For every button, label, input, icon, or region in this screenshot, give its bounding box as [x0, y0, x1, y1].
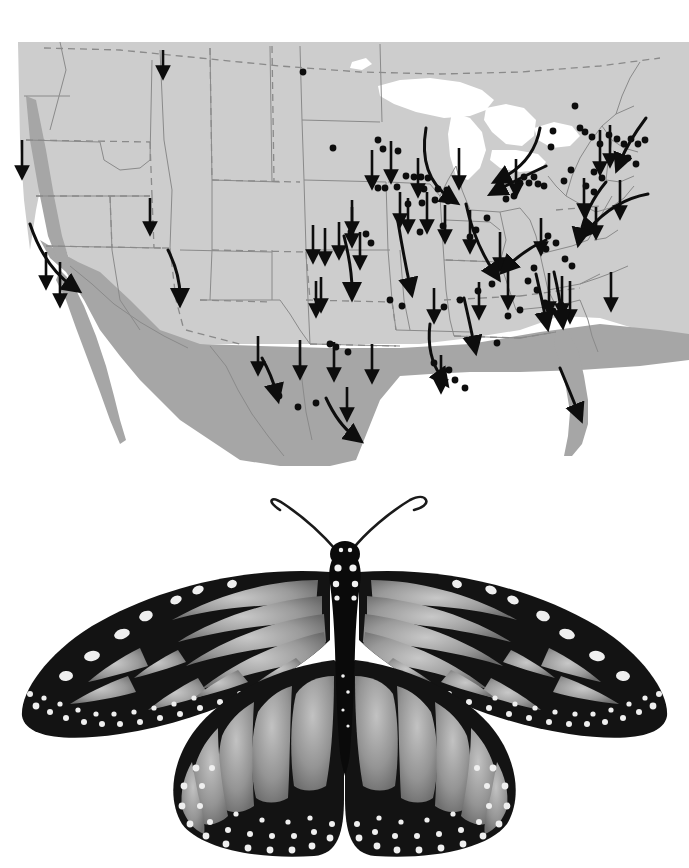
recovery-dot	[403, 173, 410, 180]
recovery-dot	[526, 180, 533, 187]
recovery-dot	[419, 200, 426, 207]
recovery-dot	[635, 141, 642, 148]
recovery-dot	[633, 161, 640, 168]
recovery-dot	[380, 146, 387, 153]
butterfly-head	[330, 541, 360, 567]
recovery-dot	[313, 400, 320, 407]
recovery-dot	[345, 349, 352, 356]
recovery-dot	[417, 229, 424, 236]
recovery-dot	[582, 129, 589, 136]
recovery-dot	[531, 174, 538, 181]
recovery-dot	[525, 278, 532, 285]
recovery-dot	[300, 69, 307, 76]
recovery-dot	[562, 256, 569, 263]
figure-container	[0, 0, 689, 868]
recovery-dot	[494, 340, 501, 347]
recovery-dot	[462, 385, 469, 392]
recovery-dot	[484, 215, 491, 222]
recovery-dot	[411, 174, 418, 181]
recovery-dot	[553, 240, 560, 247]
migration-map-panel	[0, 0, 689, 480]
recovery-dot	[421, 186, 428, 193]
recovery-dot	[535, 181, 542, 188]
recovery-dot	[550, 308, 557, 315]
recovery-dot	[395, 148, 402, 155]
recovery-dot	[545, 233, 552, 240]
recovery-dot	[399, 303, 406, 310]
butterfly-svg	[0, 480, 689, 868]
recovery-dot	[589, 134, 596, 141]
recovery-dot	[452, 377, 459, 384]
recovery-dot	[441, 304, 448, 311]
recovery-dot	[548, 144, 555, 151]
recovery-dot	[614, 136, 621, 143]
recovery-dot	[446, 367, 453, 374]
recovery-dot	[295, 404, 302, 411]
recovery-dot	[642, 137, 649, 144]
recovery-dot	[363, 231, 370, 238]
recovery-dot	[572, 103, 579, 110]
recovery-dot	[382, 185, 389, 192]
recovery-dot	[568, 167, 575, 174]
recovery-dot	[543, 246, 550, 253]
recovery-dot	[432, 197, 439, 204]
recovery-dot	[511, 193, 518, 200]
recovery-dot	[457, 297, 464, 304]
recovery-dot	[561, 178, 568, 185]
recovery-dot	[276, 393, 283, 400]
migration-map-svg	[0, 0, 689, 480]
recovery-dot	[327, 341, 334, 348]
recovery-dot	[550, 128, 557, 135]
recovery-dot	[330, 145, 337, 152]
recovery-dot	[503, 196, 510, 203]
recovery-dot	[489, 281, 496, 288]
recovery-dot	[517, 307, 524, 314]
recovery-dot	[531, 265, 538, 272]
recovery-dot	[625, 155, 632, 162]
recovery-dot	[599, 175, 606, 182]
recovery-dot	[394, 184, 401, 191]
recovery-dot	[569, 263, 576, 270]
recovery-dot	[375, 137, 382, 144]
recovery-dot	[591, 169, 598, 176]
recovery-dot	[368, 240, 375, 247]
recovery-dot	[387, 297, 394, 304]
recovery-dot	[541, 183, 548, 190]
recovery-dot	[375, 185, 382, 192]
recovery-dot	[505, 313, 512, 320]
butterfly-photograph-panel	[0, 480, 689, 868]
